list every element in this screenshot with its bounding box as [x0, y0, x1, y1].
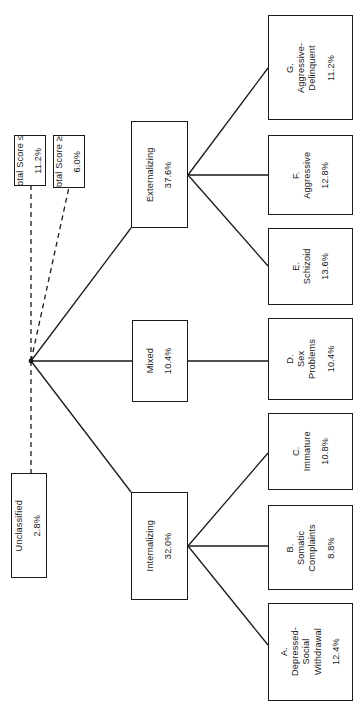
node-g-line2: Delinquent	[307, 26, 318, 109]
node-d-sex-problems[interactable]: D. Sex Problems 10.4%	[268, 318, 353, 400]
root-junction-dot	[29, 359, 34, 364]
node-e-line1: Schizoid	[301, 230, 312, 304]
node-d-percent: 10.4%	[325, 322, 336, 396]
edge-internalizing-c	[188, 453, 268, 546]
node-f-line1: Aggressive	[301, 138, 312, 212]
node-internalizing-percent: 32.0%	[163, 519, 174, 574]
node-unclassified-percent: 2.8%	[33, 500, 44, 551]
node-b-line2: Complaints	[307, 506, 318, 589]
node-externalizing[interactable]: Externalizing 37.6%	[131, 121, 188, 228]
node-total-score-low-percent: 11.2%	[34, 135, 45, 186]
node-g-aggressive-delinquent[interactable]: G. Aggressive- Delinquent 11.2%	[268, 15, 353, 120]
node-c-letter: C.	[290, 415, 301, 489]
node-d-line2: Problems	[307, 322, 318, 396]
node-b-somatic-complaints[interactable]: B. Somatic Complaints 8.8%	[268, 505, 353, 590]
node-a-line3: Withdrawal	[313, 611, 324, 694]
node-a-line2: Social	[301, 611, 312, 694]
edge-root-externalizing	[31, 228, 131, 361]
node-d-line1: Sex	[296, 322, 307, 396]
edge-externalizing-g	[188, 68, 268, 175]
node-mixed[interactable]: Mixed 10.4%	[132, 320, 188, 402]
node-total-score-low-label: Total Score ≤ 25	[15, 135, 26, 186]
node-e-letter: E.	[290, 230, 301, 304]
node-c-immature[interactable]: C. Immature 10.8%	[268, 413, 353, 490]
edge-internalizing-a	[188, 546, 268, 645]
node-internalizing[interactable]: Internalizing 32.0%	[131, 492, 188, 600]
node-c-line1: Immature	[301, 415, 312, 489]
node-unclassified-label: Unclassified	[14, 500, 25, 551]
node-f-letter: F.	[290, 138, 301, 212]
node-e-schizoid[interactable]: E. Schizoid 13.6%	[268, 228, 353, 305]
node-f-percent: 12.8%	[320, 138, 331, 212]
node-total-score-high-label: Total Score ≥ 100	[54, 135, 65, 188]
node-total-score-high-percent: 6.0%	[73, 135, 84, 188]
node-g-letter: G.	[285, 26, 296, 109]
node-a-letter: A.	[279, 611, 290, 694]
node-g-percent: 11.2%	[325, 26, 336, 109]
node-b-percent: 8.8%	[325, 506, 336, 589]
node-total-score-low[interactable]: Total Score ≤ 25 11.2%	[14, 135, 46, 186]
node-g-line1: Aggressive-	[296, 26, 307, 109]
node-c-percent: 10.8%	[320, 415, 331, 489]
node-a-depressed-social-withdrawal[interactable]: A. Depressed- Social Withdrawal 12.4%	[268, 603, 353, 701]
node-f-aggressive[interactable]: F. Aggressive 12.8%	[268, 135, 353, 215]
node-externalizing-label: Externalizing	[145, 147, 156, 202]
node-internalizing-label: Internalizing	[145, 519, 156, 574]
node-externalizing-percent: 37.6%	[163, 147, 174, 202]
edge-root-total-score-high	[31, 187, 69, 361]
node-unclassified[interactable]: Unclassified 2.8%	[11, 473, 47, 578]
node-mixed-label: Mixed	[145, 334, 156, 388]
node-a-percent: 12.4%	[331, 611, 342, 694]
node-b-letter: B.	[285, 506, 296, 589]
node-b-line1: Somatic	[296, 506, 307, 589]
node-total-score-high[interactable]: Total Score ≥ 100 6.0%	[53, 135, 85, 188]
node-e-percent: 13.6%	[320, 230, 331, 304]
diagram-canvas: Total Score ≤ 25 11.2% Total Score ≥ 100…	[0, 0, 361, 719]
node-d-letter: D.	[285, 322, 296, 396]
edge-externalizing-e	[188, 175, 268, 266]
node-a-line1: Depressed-	[290, 611, 301, 694]
node-mixed-percent: 10.4%	[164, 334, 175, 388]
